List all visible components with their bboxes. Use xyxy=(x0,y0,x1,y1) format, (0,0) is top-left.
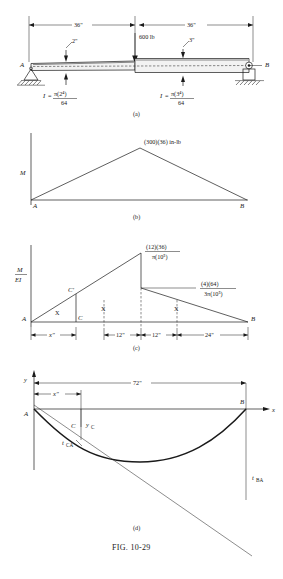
tangent-line-at-a xyxy=(34,405,252,556)
panel-b-point-a: A xyxy=(32,202,38,209)
panel-c-dim-4: 24" xyxy=(205,331,214,338)
diameter-left-callout: 2" xyxy=(64,37,78,85)
figure-container: 36" 36" 600 lb xyxy=(0,0,283,579)
centroid-marker-2: X xyxy=(101,305,106,312)
panel-c-point-b: B xyxy=(251,315,255,322)
panel-d-point-a: A xyxy=(23,410,29,417)
panel-c: M EI (12)(36) π(10⁵) (4)(64) 3π(10⁵) A B… xyxy=(14,243,255,352)
panel-c-dim-3: 12" xyxy=(152,331,161,338)
m-over-ei-diagram xyxy=(31,253,248,322)
panel-a-label: (a) xyxy=(133,110,140,118)
panel-b: M (300)(36) in-lb A B (b) xyxy=(19,133,248,221)
panel-c-dim-2: 12" xyxy=(116,331,125,338)
dimension-left-36: 36" xyxy=(29,16,135,62)
panel-d-span-dimension: 72" xyxy=(34,377,246,388)
deflection-c-label: y C xyxy=(85,421,95,430)
panel-c-dimension-chain: x" 12" 12" 24" xyxy=(31,327,248,340)
peak-numerator: (12)(36) xyxy=(146,243,167,251)
inertia-left-numerator: π(2⁴) xyxy=(54,90,67,98)
panel-d-axis-y-label: y xyxy=(23,376,27,383)
peak-denominator: π(10⁵) xyxy=(152,253,168,261)
dim-right-36-label: 36" xyxy=(187,21,196,28)
step-denominator: 3π(10⁵) xyxy=(204,290,223,298)
dim-left-36-label: 36" xyxy=(74,21,83,28)
moment-diagram-triangle xyxy=(31,148,247,200)
figure-svg: 36" 36" 600 lb xyxy=(0,0,283,579)
inertia-left-symbol: I xyxy=(42,92,46,99)
beam-stepped-shaft xyxy=(31,59,249,73)
panel-d-point-b: B xyxy=(240,398,244,405)
inertia-left-formula: I = π(2⁴) 64 xyxy=(42,90,77,106)
support-a-label: A xyxy=(19,61,25,68)
load-label: 600 lb xyxy=(139,33,155,40)
deviation-ba-label: t BA xyxy=(252,474,263,483)
panel-d-axis-x-label: x xyxy=(271,406,275,413)
panel-b-point-b: B xyxy=(240,202,244,209)
panel-d: y x 72" x" xyxy=(23,370,275,556)
panel-a: 36" 36" 600 lb xyxy=(17,16,269,118)
centroid-marker-3: X xyxy=(174,305,179,312)
deflection-c-symbol: y xyxy=(85,421,89,428)
inertia-right-equals: = xyxy=(165,92,169,99)
dimension-right-36: 36" xyxy=(139,16,253,62)
support-b-label: B xyxy=(265,61,269,68)
panel-d-label: (d) xyxy=(133,524,140,532)
m-over-ei-step-label: (4)(64) 3π(10⁵) xyxy=(141,280,236,298)
deviation-ca-symbol: t xyxy=(62,439,64,446)
moment-peak-label: (300)(36) in-lb xyxy=(144,138,181,146)
inertia-right-numerator: π(3⁴) xyxy=(171,90,184,98)
panel-d-dim-x-label: x" xyxy=(52,390,59,397)
panel-b-label: (b) xyxy=(133,213,140,221)
deviation-ba-symbol: t xyxy=(252,474,254,481)
inertia-left-denominator: 64 xyxy=(61,99,67,106)
panel-c-point-c-prime: C′ xyxy=(68,286,75,293)
panel-d-point-c: C xyxy=(71,422,76,429)
deviation-ba-subscript: BA xyxy=(256,477,263,483)
panel-c-axis-label: M EI xyxy=(14,266,27,283)
deviation-ca-subscript: CA xyxy=(66,442,73,448)
inertia-right-symbol: I xyxy=(159,92,163,99)
panel-c-point-c: C xyxy=(78,314,83,321)
inertia-right-formula: I = π(3⁴) 64 xyxy=(159,90,194,106)
diameter-right-label: 3" xyxy=(189,36,195,43)
diameter-left-label: 2" xyxy=(72,37,78,44)
panel-d-x-axis: x xyxy=(34,406,275,413)
panel-c-label: (c) xyxy=(133,344,140,352)
panel-c-dim-1: x" xyxy=(48,331,55,338)
panel-b-axis-label: M xyxy=(19,169,26,176)
panel-c-axis-num: M xyxy=(16,266,23,273)
panel-c-axis-den: EI xyxy=(14,276,22,283)
panel-d-y-axis: y xyxy=(23,370,36,470)
figure-caption: FIG. 10-29 xyxy=(112,543,151,552)
step-numerator: (4)(64) xyxy=(201,280,219,288)
inertia-left-equals: = xyxy=(48,92,52,99)
deflection-c-subscript: C xyxy=(91,424,95,430)
panel-d-span-label: 72" xyxy=(133,379,142,386)
panel-c-point-a: A xyxy=(21,315,27,322)
elastic-curve xyxy=(34,409,246,462)
m-over-ei-peak-label: (12)(36) π(10⁵) xyxy=(145,243,180,261)
centroid-marker-1: X xyxy=(55,309,60,316)
inertia-right-denominator: 64 xyxy=(178,99,184,106)
